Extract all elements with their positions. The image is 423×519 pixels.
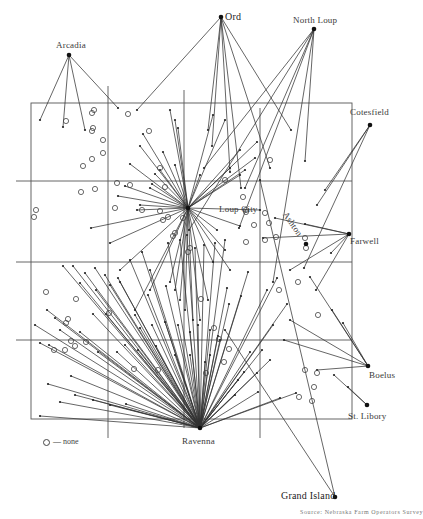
trade-line xyxy=(106,314,200,428)
farm-dot xyxy=(272,281,274,283)
farm-dot xyxy=(179,239,181,241)
trade-line xyxy=(348,387,367,405)
none-circle-icon xyxy=(315,312,320,317)
farm-dot xyxy=(139,145,141,147)
farm-dot xyxy=(155,345,157,347)
farm-dot xyxy=(214,242,216,244)
farm-dot xyxy=(134,314,136,316)
town-label-north-loup: North Loup xyxy=(293,15,337,25)
farm-dot xyxy=(189,331,191,333)
farm-dot xyxy=(174,164,176,166)
farm-dot xyxy=(169,109,171,111)
farm-dot xyxy=(197,324,199,326)
farm-dot xyxy=(109,284,111,286)
trade-line xyxy=(188,158,255,208)
farm-dot xyxy=(141,251,143,253)
farm-dot xyxy=(249,351,251,353)
trade-line xyxy=(188,168,230,208)
farm-dot xyxy=(184,309,186,311)
farm-dot xyxy=(192,319,194,321)
none-circle-icon xyxy=(276,287,281,292)
farm-dot xyxy=(177,324,179,326)
town-marker-icon xyxy=(67,53,72,58)
town-markers xyxy=(67,15,373,500)
none-circle-icon xyxy=(251,222,256,227)
trade-line xyxy=(310,277,368,366)
farm-dot xyxy=(39,119,41,121)
trade-line xyxy=(69,55,85,130)
farm-dot xyxy=(244,187,246,189)
farm-dot xyxy=(137,349,139,351)
farm-dot xyxy=(261,349,263,351)
farm-dot xyxy=(84,272,86,274)
farm-dot xyxy=(289,269,291,271)
trade-line xyxy=(188,208,213,262)
none-circle-icon xyxy=(112,205,117,210)
farm-dot xyxy=(279,397,281,399)
farm-dot xyxy=(174,119,176,121)
none-circle-icon xyxy=(243,239,248,244)
trade-line xyxy=(290,320,368,366)
farm-dot xyxy=(212,261,214,263)
farm-dot xyxy=(254,157,256,159)
farm-dot xyxy=(169,281,171,283)
trade-line xyxy=(200,278,277,428)
none-circle-icon xyxy=(314,370,319,375)
none-circle-icon xyxy=(68,338,73,343)
farm-dot xyxy=(92,399,94,401)
trade-line xyxy=(80,332,200,428)
trade-line xyxy=(317,366,368,370)
farm-dot xyxy=(142,133,144,135)
farm-dot xyxy=(59,401,61,403)
map-legend: — none xyxy=(43,437,79,446)
farm-dot xyxy=(234,394,236,396)
farm-dot xyxy=(129,259,131,261)
none-circle-icon xyxy=(226,346,231,351)
none-circle-icon xyxy=(146,128,151,133)
farm-dot xyxy=(186,234,188,236)
farm-dot xyxy=(79,331,81,333)
farm-dot xyxy=(149,269,151,271)
farm-dot xyxy=(92,313,94,315)
trade-line xyxy=(118,196,188,208)
none-circle-icon xyxy=(211,325,216,330)
farm-dot xyxy=(84,129,86,131)
trade-line xyxy=(245,29,314,188)
farm-dot xyxy=(48,344,50,346)
farm-dot xyxy=(151,324,153,326)
farm-dot xyxy=(216,229,218,231)
farm-dot xyxy=(54,317,56,319)
farm-dot xyxy=(94,267,96,269)
none-circle-icon xyxy=(63,118,68,123)
farm-dot xyxy=(229,167,231,169)
farm-dot xyxy=(79,282,81,284)
farm-dot xyxy=(167,242,169,244)
town-label-ravenna: Ravenna xyxy=(182,436,215,446)
township-grid xyxy=(16,86,352,438)
none-circle-icon xyxy=(72,343,77,348)
trade-line xyxy=(305,224,349,234)
farm-dot xyxy=(239,225,241,227)
farm-dot xyxy=(304,223,306,225)
farm-dot xyxy=(266,289,268,291)
farm-dot xyxy=(224,249,226,251)
farm-dot xyxy=(109,404,111,406)
farm-dot xyxy=(304,160,306,162)
none-circle-icon xyxy=(267,157,272,162)
town-marker-icon xyxy=(312,27,317,32)
none-circle-icon xyxy=(127,182,132,187)
farm-dot xyxy=(70,375,72,377)
farm-dot xyxy=(239,174,241,176)
farm-dot xyxy=(243,371,245,373)
farm-dot xyxy=(315,289,317,291)
farm-dot xyxy=(90,227,92,229)
none-circle-icon xyxy=(92,186,97,191)
farm-dot xyxy=(97,351,99,353)
trade-line xyxy=(225,330,335,497)
farm-dot xyxy=(119,281,121,283)
farm-dot xyxy=(162,151,164,153)
none-circle-icon xyxy=(106,310,111,315)
farm-dot xyxy=(124,344,126,346)
farm-dot xyxy=(136,209,138,211)
farm-dot xyxy=(62,126,64,128)
